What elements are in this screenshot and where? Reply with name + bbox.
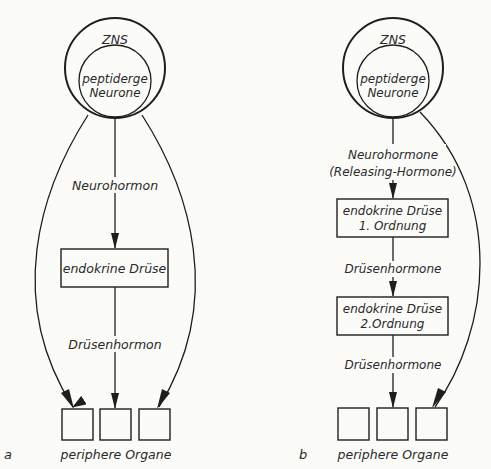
neurone-label-b-line2: Neurone — [367, 86, 418, 100]
label-druesenhormone-b-2: Drüsenhormone — [345, 358, 442, 372]
organ-box-b-2 — [377, 408, 408, 440]
panel-id-b: b — [299, 447, 307, 462]
gland-box-b-2-line1: endokrine Drüse — [343, 302, 442, 316]
arrowhead-druesenhormone-b-2 — [389, 392, 397, 408]
arrowhead-druesenhormon-a — [111, 393, 119, 409]
gland-box-b-1-line2: 1. Ordnung — [359, 219, 427, 233]
arrowhead-druesenhormone-b-1 — [389, 281, 397, 297]
panel-id-a: a — [4, 447, 12, 462]
zns-label-a: ZNS — [101, 32, 128, 47]
panel-a: Neurohormon endokrine Drüse Drüsenhormon… — [4, 18, 195, 462]
label-neurohormon-a: Neurohormon — [72, 178, 158, 193]
organ-box-a-2 — [100, 409, 131, 440]
label-druesenhormone-b-1: Drüsenhormone — [345, 262, 442, 276]
neurohormone-diagram: Neurohormon endokrine Drüse Drüsenhormon… — [0, 0, 491, 469]
label-neurohormone-b-line1: Neurohormone — [348, 148, 438, 162]
organ-box-a-3 — [139, 409, 170, 440]
arrowhead-neurohormon-a — [111, 233, 119, 249]
arrowhead-left-a — [61, 389, 74, 409]
neurone-label-a-line2: Neurone — [89, 86, 140, 100]
gland-box-b-2-line2: 2.Ordnung — [361, 317, 425, 331]
organs-label-b: periphere Organe — [337, 447, 449, 462]
zns-label-b: ZNS — [379, 32, 406, 47]
label-druesenhormon-a: Drüsenhormon — [68, 337, 161, 352]
gland-box-b-1-line1: endokrine Drüse — [343, 204, 442, 218]
neurone-label-a-line1: peptiderge — [81, 72, 148, 86]
organ-box-b-3 — [416, 408, 447, 440]
organs-label-a: periphere Organe — [60, 447, 172, 462]
gland-box-a-label: endokrine Drüse — [63, 261, 167, 276]
label-neurohormone-b-line2: (Releasing-Hormone) — [329, 165, 457, 179]
panel-b: Neurohormone (Releasing-Hormone) endokri… — [299, 18, 480, 462]
neurone-label-b-line1: peptiderge — [359, 72, 426, 86]
arrowhead-neurohormone-b — [389, 183, 397, 199]
organ-box-b-1 — [338, 408, 369, 440]
arrowhead-right-b — [432, 388, 446, 408]
organ-box-a-1 — [62, 409, 93, 440]
